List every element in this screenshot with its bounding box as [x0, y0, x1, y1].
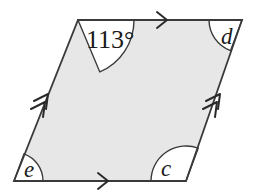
- angle-label-113: 113°: [86, 25, 134, 54]
- angle-label-c: c: [161, 156, 171, 181]
- geometry-figure: 113° d c e: [0, 0, 256, 192]
- parallelogram-diagram: 113° d c e: [0, 0, 256, 192]
- angle-label-e: e: [24, 157, 34, 182]
- angle-label-d: d: [221, 24, 233, 49]
